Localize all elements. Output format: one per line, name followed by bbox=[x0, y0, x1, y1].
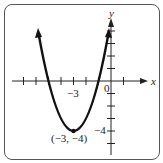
tick-label-neg3: −3 bbox=[67, 87, 79, 99]
parabola-graph: x y −3 0 −4 (−3, −4) bbox=[0, 0, 163, 163]
y-axis-label: y bbox=[108, 7, 114, 19]
vertex-label: (−3, −4) bbox=[51, 132, 88, 145]
origin-label: 0 bbox=[104, 82, 110, 94]
tick-label-neg4: −4 bbox=[94, 124, 106, 136]
x-axis-label: x bbox=[150, 75, 156, 87]
y-axis-arrow-icon bbox=[108, 18, 114, 27]
x-axis-arrow-icon bbox=[140, 78, 148, 84]
curve-left-arrow-icon bbox=[35, 28, 42, 38]
